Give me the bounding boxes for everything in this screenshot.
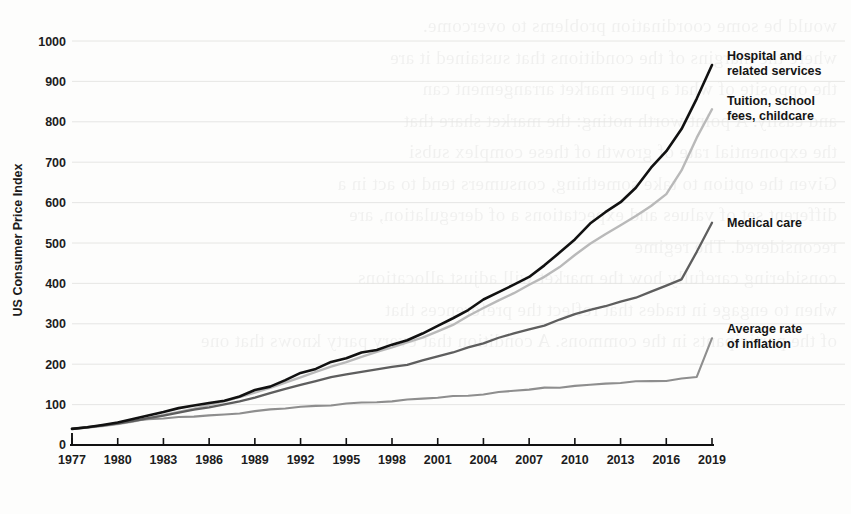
series-label: Tuition, school (727, 94, 815, 108)
x-axis-tick-labels: 1977198019831986198919921995199820012004… (58, 453, 726, 467)
y-tick-label: 400 (45, 277, 66, 291)
x-tick-label: 1980 (104, 453, 132, 467)
chart-container: 1002003004005006007008009001000 19771980… (0, 0, 851, 514)
x-tick-label: 1992 (287, 453, 315, 467)
series-label: Average rate (727, 322, 802, 336)
x-tick-label: 2010 (561, 453, 589, 467)
y-tick-label: 100 (45, 398, 66, 412)
y-tick-label: 500 (45, 237, 66, 251)
y-tick-label: 200 (45, 358, 66, 372)
x-tick-label: 1995 (332, 453, 360, 467)
series-label: Hospital and (727, 49, 802, 63)
series-line-hospital-and-related-services (72, 65, 712, 429)
x-tick-label: 1998 (378, 453, 406, 467)
origin-label: 0 (59, 438, 66, 452)
series-label-line2: of inflation (727, 337, 791, 351)
axis-lines (70, 433, 714, 445)
x-tick-label: 1983 (150, 453, 178, 467)
series-labels: Hospital andrelated servicesTuition, sch… (727, 49, 822, 351)
x-tick-label: 1986 (195, 453, 223, 467)
series-label: Medical care (727, 216, 802, 230)
x-tick-label: 2007 (515, 453, 543, 467)
series-label-line2: related services (727, 64, 822, 78)
x-tick-label: 1989 (241, 453, 269, 467)
series-line-tuition-school-fees-childcare (72, 109, 712, 429)
x-tick-label: 1977 (58, 453, 86, 467)
x-tick-label: 2004 (470, 453, 498, 467)
line-chart: 1002003004005006007008009001000 19771980… (0, 0, 851, 514)
x-tick-label: 2016 (652, 453, 680, 467)
y-tick-label: 900 (45, 75, 66, 89)
y-axis-title: US Consumer Price Index (11, 164, 25, 317)
y-tick-label: 300 (45, 317, 66, 331)
x-tick-label: 2013 (607, 453, 635, 467)
x-tick-label: 2019 (698, 453, 726, 467)
series-lines (72, 65, 712, 429)
series-label-line2: fees, childcare (727, 109, 814, 123)
series-line-medical-care (72, 223, 712, 429)
y-tick-label: 600 (45, 196, 66, 210)
y-tick-label: 700 (45, 156, 66, 170)
x-tick-label: 2001 (424, 453, 452, 467)
y-axis-tick-labels: 1002003004005006007008009001000 (38, 35, 66, 413)
y-tick-label: 800 (45, 115, 66, 129)
y-tick-label: 1000 (38, 35, 66, 49)
